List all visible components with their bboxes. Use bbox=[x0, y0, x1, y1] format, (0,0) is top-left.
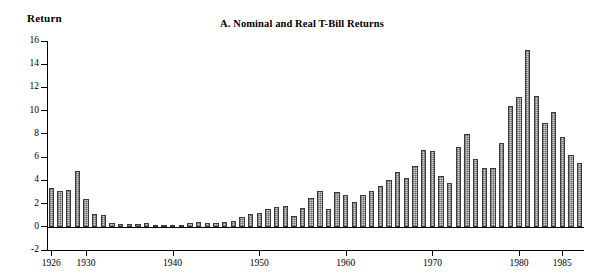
y-tick-mark bbox=[41, 180, 47, 181]
bar bbox=[239, 217, 244, 226]
bar bbox=[231, 221, 236, 227]
x-tick-mark bbox=[173, 250, 174, 256]
bar bbox=[153, 225, 158, 227]
bar bbox=[482, 168, 487, 227]
bar bbox=[395, 172, 400, 227]
bar bbox=[473, 159, 478, 226]
bar bbox=[101, 215, 106, 227]
bar bbox=[170, 225, 175, 227]
bar bbox=[205, 223, 210, 226]
bar bbox=[386, 180, 391, 226]
y-tick-label: 2 bbox=[13, 197, 39, 210]
bar bbox=[560, 137, 565, 226]
bar bbox=[257, 213, 262, 227]
y-tick-label: 16 bbox=[13, 34, 39, 47]
bar bbox=[343, 195, 348, 226]
bar bbox=[499, 143, 504, 227]
bar bbox=[308, 198, 313, 227]
x-tick-mark bbox=[519, 250, 520, 256]
bar bbox=[161, 225, 166, 227]
bar bbox=[577, 163, 582, 227]
bar bbox=[334, 192, 339, 227]
bar bbox=[213, 223, 218, 226]
bar bbox=[66, 190, 71, 227]
bar bbox=[378, 186, 383, 227]
bar bbox=[248, 214, 253, 227]
bar bbox=[534, 96, 539, 227]
bar bbox=[179, 225, 184, 227]
y-tick-label: 6 bbox=[13, 150, 39, 163]
bar bbox=[222, 222, 227, 227]
y-tick-label: 4 bbox=[13, 173, 39, 186]
bar bbox=[144, 223, 149, 226]
bar bbox=[369, 191, 374, 227]
bar bbox=[542, 123, 547, 226]
x-tick-mark bbox=[562, 250, 563, 256]
bar bbox=[404, 178, 409, 227]
x-tick-mark bbox=[51, 250, 52, 256]
x-axis-line bbox=[47, 250, 584, 251]
bar bbox=[187, 223, 192, 226]
x-tick-label: 1985 bbox=[553, 258, 572, 268]
bar bbox=[92, 214, 97, 227]
y-tick-label: 8 bbox=[13, 127, 39, 140]
bar bbox=[109, 223, 114, 226]
x-tick-mark bbox=[86, 250, 87, 256]
bar bbox=[300, 208, 305, 227]
bar bbox=[283, 206, 288, 227]
y-tick-mark bbox=[41, 226, 47, 227]
bar bbox=[75, 171, 80, 227]
bar bbox=[196, 222, 201, 227]
bar bbox=[135, 224, 140, 226]
x-tick-label: 1970 bbox=[423, 258, 442, 268]
y-tick-mark bbox=[41, 64, 47, 65]
bar bbox=[421, 150, 426, 227]
bar bbox=[57, 191, 62, 227]
bar bbox=[326, 209, 331, 226]
y-tick-mark bbox=[41, 41, 47, 42]
y-tick-mark bbox=[41, 157, 47, 158]
y-tick-label: 12 bbox=[13, 80, 39, 93]
y-tick-label: 14 bbox=[13, 57, 39, 70]
bar bbox=[127, 224, 132, 226]
bar bbox=[568, 155, 573, 227]
x-tick-label: 1980 bbox=[510, 258, 529, 268]
bar bbox=[265, 209, 270, 226]
bar bbox=[464, 134, 469, 227]
bar bbox=[83, 199, 88, 227]
bar bbox=[456, 147, 461, 227]
bar bbox=[274, 207, 279, 227]
bar bbox=[317, 191, 322, 227]
bar bbox=[352, 202, 357, 226]
x-tick-label: 1930 bbox=[76, 258, 95, 268]
bar bbox=[438, 176, 443, 227]
bar bbox=[49, 188, 54, 226]
y-tick-mark bbox=[41, 110, 47, 111]
bar bbox=[551, 112, 556, 227]
y-tick-label: -2 bbox=[13, 243, 39, 256]
bar bbox=[525, 50, 530, 226]
bar bbox=[291, 216, 296, 226]
bar bbox=[412, 166, 417, 226]
bar bbox=[447, 183, 452, 227]
chart-figure: Return A. Nominal and Real T-Bill Return… bbox=[0, 0, 604, 274]
x-tick-label: 1960 bbox=[336, 258, 355, 268]
y-tick-mark bbox=[41, 250, 47, 251]
x-tick-mark bbox=[346, 250, 347, 256]
y-tick-label: 10 bbox=[13, 104, 39, 117]
bar bbox=[508, 106, 513, 227]
bar bbox=[360, 195, 365, 226]
x-tick-label: 1926 bbox=[42, 258, 61, 268]
bar bbox=[118, 224, 123, 226]
bar bbox=[490, 168, 495, 227]
bar bbox=[516, 97, 521, 227]
bar bbox=[430, 151, 435, 226]
y-tick-mark bbox=[41, 203, 47, 204]
x-tick-mark bbox=[432, 250, 433, 256]
y-tick-mark bbox=[41, 87, 47, 88]
y-tick-mark bbox=[41, 133, 47, 134]
x-tick-mark bbox=[259, 250, 260, 256]
chart-title: A. Nominal and Real T-Bill Returns bbox=[0, 18, 604, 29]
x-tick-label: 1940 bbox=[163, 258, 182, 268]
x-tick-label: 1950 bbox=[250, 258, 269, 268]
